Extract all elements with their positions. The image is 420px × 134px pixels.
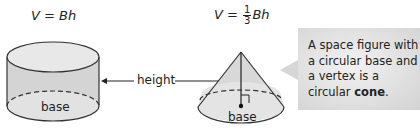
formula-variable-v: V bbox=[214, 7, 223, 22]
arrow-left-icon bbox=[101, 78, 107, 84]
cylinder-volume-formula: V = Bh bbox=[31, 8, 76, 23]
term-cone: cone bbox=[354, 85, 385, 99]
formula-bh: Bh bbox=[59, 8, 76, 23]
cylinder-base-label: base bbox=[41, 100, 70, 114]
one-third-fraction: 13 bbox=[243, 5, 251, 26]
formula-equals: = bbox=[40, 8, 59, 23]
height-label: height bbox=[137, 73, 175, 87]
base-center-dot bbox=[239, 104, 243, 108]
cone-base-label: base bbox=[228, 110, 257, 124]
cone-volume-formula: V = 13Bh bbox=[214, 5, 270, 26]
formula-bh: Bh bbox=[252, 7, 269, 22]
formula-equals: = bbox=[223, 7, 242, 22]
callout-text: A space figure with a circular base and … bbox=[308, 38, 420, 100]
formula-variable-v: V bbox=[31, 8, 40, 23]
callout-pointer bbox=[280, 60, 298, 80]
cylinder-top-ellipse bbox=[7, 42, 99, 72]
volume-formulas-figure: V = Bh V = 13Bh height base base A space… bbox=[0, 0, 420, 134]
definition-callout: A space figure with a circular base and … bbox=[298, 28, 420, 110]
